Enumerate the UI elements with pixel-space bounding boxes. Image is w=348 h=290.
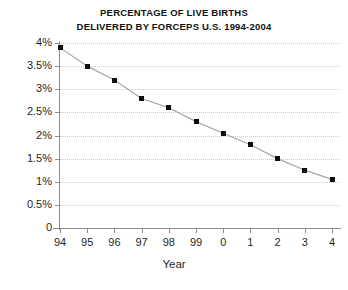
gridline [60,205,340,206]
data-point-marker [248,142,253,147]
y-axis-tick [55,205,60,206]
x-axis-label: 4 [317,236,347,248]
y-axis-tick [55,136,60,137]
gridline [60,136,340,137]
chart-title-line-1: PERCENTAGE OF LIVE BIRTHS [0,6,348,20]
x-axis-tick [305,228,306,233]
x-axis-tick [250,228,251,233]
x-axis-label: 3 [290,236,320,248]
x-axis-tick [142,228,143,233]
x-axis-tick [278,228,279,233]
chart-container: PERCENTAGE OF LIVE BIRTHS DELIVERED BY F… [0,0,348,290]
x-axis-tick [332,228,333,233]
data-point-marker [275,156,280,161]
data-point-marker [58,45,63,50]
x-axis-tick [114,228,115,233]
y-axis-label: 4% [0,36,52,48]
x-axis-label: 98 [154,236,184,248]
x-axis-label: 99 [181,236,211,248]
data-point-marker [139,96,144,101]
y-axis-tick [55,66,60,67]
data-point-marker [85,64,90,69]
data-point-marker [221,131,226,136]
x-axis-line [53,228,341,229]
x-axis-tick [169,228,170,233]
y-axis-label-text: 3.5% [27,59,52,71]
gridline [60,66,340,67]
y-axis-label-text: 0.5% [27,198,52,210]
x-axis-tick [223,228,224,233]
data-point-marker [166,105,171,110]
x-axis-label: 0 [208,236,238,248]
y-axis-tick [55,112,60,113]
chart-title-block: PERCENTAGE OF LIVE BIRTHS DELIVERED BY F… [0,6,348,34]
gridline [60,159,340,160]
x-axis-label: 94 [45,236,75,248]
chart-title-line-2: DELIVERED BY FORCEPS U.S. 1994-2004 [0,20,348,34]
y-axis-label: 1% [0,175,52,187]
data-point-marker [194,119,199,124]
y-axis-label-text: 2.5% [27,105,52,117]
gridline [60,89,340,90]
data-point-marker [302,168,307,173]
x-axis-label: 1 [235,236,265,248]
x-axis-title: Year [0,258,348,270]
y-axis-tick [55,159,60,160]
y-axis-label: 3.5% [0,59,52,71]
y-axis-label-text: 2% [36,129,52,141]
x-axis-label: 2 [263,236,293,248]
y-axis-label-text: 0 [46,221,52,233]
x-axis-label: 96 [99,236,129,248]
gridline [60,43,340,44]
y-axis-label: 0.5% [0,198,52,210]
y-axis-label: 3% [0,82,52,94]
x-axis-tick [196,228,197,233]
y-axis-label: 2% [0,129,52,141]
x-axis-label: 95 [72,236,102,248]
y-axis-label: 1.5% [0,152,52,164]
x-axis-tick [60,228,61,233]
y-axis-label: 2.5% [0,105,52,117]
data-point-marker [330,177,335,182]
y-axis-label: 0 [0,221,52,233]
data-point-marker [112,78,117,83]
y-axis-label-text: 3% [36,82,52,94]
y-axis-label-text: 1% [36,175,52,187]
y-axis-tick [55,182,60,183]
y-axis-label-text: 4% [36,36,52,48]
x-axis-tick [87,228,88,233]
gridline [60,182,340,183]
y-axis-label-text: 1.5% [27,152,52,164]
gridline [60,112,340,113]
y-axis-tick [55,89,60,90]
x-axis-label: 97 [127,236,157,248]
y-axis-tick [55,43,60,44]
